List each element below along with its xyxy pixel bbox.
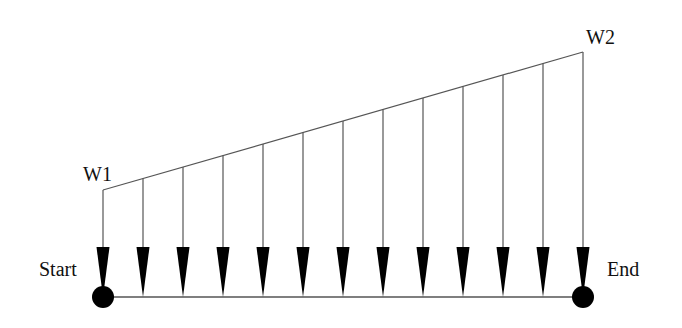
start-label: Start — [39, 258, 77, 280]
end-label: End — [607, 258, 639, 280]
start-node-icon — [92, 286, 114, 308]
arrow-down-icon — [417, 247, 430, 297]
arrow-down-icon — [257, 247, 270, 297]
load-arrows — [97, 52, 590, 297]
arrow-down-icon — [497, 247, 510, 297]
w1-label: W1 — [83, 163, 112, 185]
arrow-down-icon — [377, 247, 390, 297]
end-node-icon — [572, 286, 594, 308]
arrow-down-icon — [457, 247, 470, 297]
arrow-down-icon — [177, 247, 190, 297]
arrow-down-icon — [297, 247, 310, 297]
arrow-down-icon — [337, 247, 350, 297]
arrow-down-icon — [217, 247, 230, 297]
arrow-down-icon — [137, 247, 150, 297]
w2-label: W2 — [586, 26, 615, 48]
load-diagram: W1 W2 Start End — [0, 0, 682, 328]
arrow-down-icon — [537, 247, 550, 297]
